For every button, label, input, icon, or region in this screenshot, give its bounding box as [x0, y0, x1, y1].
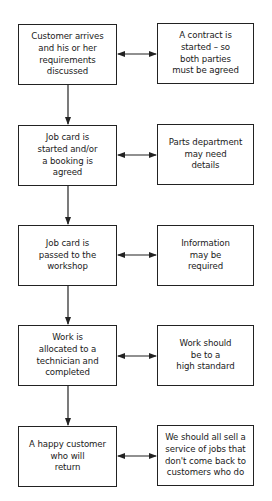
step-2-text: Job card is started and/or a booking is …	[38, 132, 98, 178]
step-5-text: A happy customer who will return	[29, 439, 106, 474]
step-4-note-box: Work should be to a high standard	[157, 325, 254, 386]
step-1-note-box: A contract is started – so both parties …	[157, 23, 254, 84]
step-2-box: Job card is started and/or a booking is …	[18, 125, 117, 186]
step-2-note-text: Parts department may need details	[169, 137, 242, 172]
step-4-note-text: Work should be to a high standard	[176, 338, 234, 373]
step-5-box: A happy customer who will return	[18, 426, 117, 487]
step-3-text: Job card is passed to the workshop	[39, 238, 96, 273]
step-3-box: Job card is passed to the workshop	[18, 225, 117, 286]
step-4-text: Work is allocated to a technician and co…	[37, 332, 99, 378]
step-5-note-text: We should all sell a service of jobs tha…	[165, 432, 246, 478]
step-4-box: Work is allocated to a technician and co…	[18, 325, 117, 386]
step-1-text: Customer arrives and his or her requirem…	[31, 31, 103, 77]
step-3-note-text: Information may be required	[181, 238, 230, 273]
step-2-note-box: Parts department may need details	[157, 124, 254, 185]
step-1-note-text: A contract is started – so both parties …	[172, 30, 239, 76]
step-5-note-box: We should all sell a service of jobs tha…	[157, 425, 254, 486]
step-1-box: Customer arrives and his or her requirem…	[18, 24, 117, 85]
step-3-note-box: Information may be required	[157, 225, 254, 286]
